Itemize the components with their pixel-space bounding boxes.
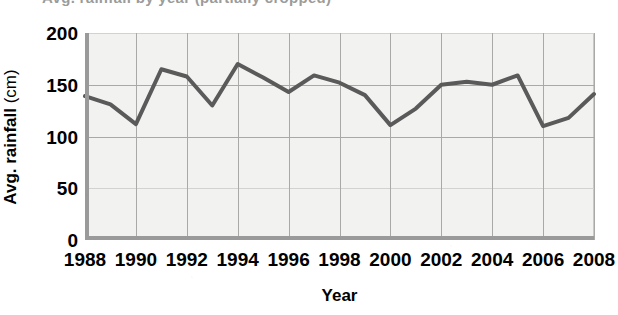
x-tick-label: 2004 (471, 250, 513, 269)
y-tick-label: 100 (16, 128, 78, 147)
x-tick-label: 2002 (420, 250, 462, 269)
x-axis-line (85, 236, 594, 240)
x-tick-label: 2000 (369, 250, 411, 269)
x-tick-label: 1996 (267, 250, 309, 269)
plot-area (85, 33, 594, 240)
gridline-vertical (594, 33, 595, 240)
y-tick-label: 200 (16, 24, 78, 43)
x-tick-label: 2008 (573, 250, 615, 269)
x-tick-label: 1998 (318, 250, 360, 269)
x-tick-label: 1992 (166, 250, 208, 269)
x-axis-title: Year (85, 286, 594, 306)
x-tick-label: 2006 (522, 250, 564, 269)
y-axis-line (85, 33, 89, 240)
rainfall-line-chart: Avg. rainfall by year (partially cropped… (0, 0, 618, 315)
chart-title-cropped: Avg. rainfall by year (partially cropped… (0, 0, 618, 9)
x-tick-label: 1988 (64, 250, 106, 269)
x-tick-label: 1994 (217, 250, 259, 269)
y-tick-label: 0 (16, 231, 78, 250)
y-tick-label: 150 (16, 76, 78, 95)
x-axis-tick-labels: 1988199019921994199619982000200220042006… (85, 250, 594, 274)
y-tick-label: 50 (16, 179, 78, 198)
chart-title-text: Avg. rainfall by year (partially cropped… (42, 0, 331, 6)
data-series-line (85, 33, 594, 240)
x-tick-label: 1990 (115, 250, 157, 269)
